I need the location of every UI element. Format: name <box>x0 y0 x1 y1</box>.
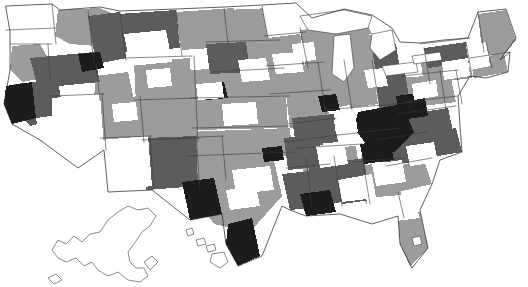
patch-wy-white <box>146 68 172 88</box>
patch-wa-west-white <box>6 4 52 32</box>
us-county-choropleth-svg <box>0 0 528 287</box>
patch-nc-white <box>406 142 438 166</box>
lake-okeechobee <box>412 236 422 246</box>
patch-az-white <box>100 136 152 192</box>
patch-ky-white <box>334 118 358 134</box>
patch-wi-white <box>292 42 316 62</box>
patch-mt-central-white <box>124 30 172 66</box>
patch-nh-vt-white <box>466 42 490 70</box>
patch-ks-white <box>222 102 258 126</box>
patch-la-delta <box>300 190 336 216</box>
patch-ok-dark-sm <box>262 146 284 162</box>
choropleth-map-figure <box>0 0 528 287</box>
patch-ga-sc-white <box>372 160 406 186</box>
patch-tx-white-2 <box>226 186 260 210</box>
patch-ut-white <box>112 102 138 122</box>
patch-ca-sw-white <box>36 114 68 140</box>
florida-detail <box>412 236 422 246</box>
